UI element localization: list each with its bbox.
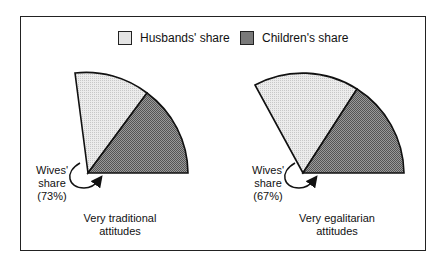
wives-label-egalitarian: Wives' share (67%): [252, 164, 284, 203]
caption-egalitarian: Very egalitarian attitudes: [277, 212, 397, 238]
pie-traditional: [70, 72, 188, 188]
caption-traditional: Very traditional attitudes: [60, 212, 180, 238]
wives-label-traditional: Wives' share (73%): [36, 164, 68, 203]
